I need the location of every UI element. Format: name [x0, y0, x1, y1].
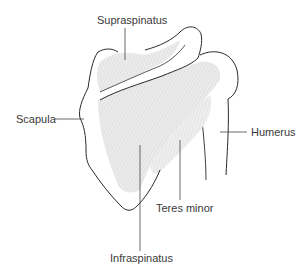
label-infraspinatus: Infraspinatus — [110, 252, 173, 264]
label-scapula: Scapula — [16, 113, 56, 125]
label-humerus: Humerus — [251, 126, 296, 138]
label-teres-minor: Teres minor — [156, 202, 213, 214]
label-supraspinatus: Supraspinatus — [97, 14, 167, 26]
